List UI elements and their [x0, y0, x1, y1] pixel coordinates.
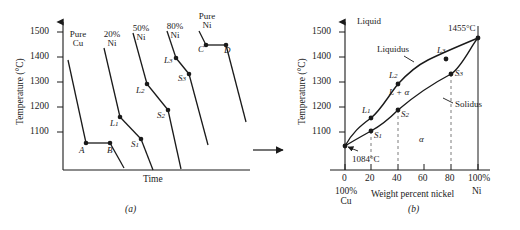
- panel-a-y-axis-title: Temperature (°C): [16, 58, 26, 125]
- panel-b-x-tick-20: 20: [365, 174, 375, 184]
- panel-b-liquidus-label: Liquidus: [377, 45, 409, 54]
- panel-b-region-alpha: α: [419, 135, 424, 144]
- panel-b-x-tick-0: 0: [342, 174, 347, 184]
- panel-a-label-20ni: 20% Ni: [100, 30, 124, 48]
- panel-b-right-corner-label: Ni: [472, 187, 482, 197]
- panel-a-y-tick-1500: 1500: [30, 27, 49, 37]
- panel-b-y-tick-1100: 1100: [312, 127, 331, 137]
- panel-b-axes: [330, 22, 490, 170]
- panel-b-tie-lines: [371, 74, 451, 163]
- panel-b-melting-point-ni: 1455°C: [448, 24, 476, 33]
- panel-a-y-tick-1300: 1300: [30, 77, 49, 87]
- panel-b-x-tick-100: 100%: [468, 174, 490, 184]
- panel-a-point-a: A: [79, 146, 85, 155]
- panel-a-point-l1: L1: [110, 119, 119, 128]
- panel-b-leader-lines: [348, 56, 453, 151]
- panel-b-left-corner-label: 100% Cu: [333, 187, 359, 206]
- panel-b-x-tick-80: 80: [445, 174, 455, 184]
- panel-b-x-tick-40: 40: [392, 174, 402, 184]
- panel-b-region-liquid: Liquid: [357, 17, 381, 26]
- panel-b-markers: [343, 36, 481, 149]
- panel-b-solidus-curve: [345, 38, 478, 146]
- panel-a-point-s1: S1: [131, 140, 139, 149]
- panel-b-y-tick-1400: 1400: [312, 52, 331, 62]
- panel-b-melting-point-cu: 1084°C: [352, 155, 380, 164]
- panel-b-region-l-plus-alpha: L + α: [389, 88, 409, 97]
- panel-b-x-axis-title: Weight percent nickel: [371, 190, 454, 200]
- panel-b-y-tick-1200: 1200: [312, 102, 331, 112]
- panel-b-y-tick-1300: 1300: [312, 77, 331, 87]
- panel-b-caption: (b): [408, 205, 419, 215]
- panel-b-y-tick-1500: 1500: [312, 27, 331, 37]
- panel-a-y-tick-1200: 1200: [30, 102, 49, 112]
- panel-b-solidus-label: Solidus: [455, 100, 482, 109]
- panel-b-point-l2: L2: [389, 71, 398, 80]
- panel-b-point-s2: S2: [401, 110, 409, 119]
- panel-b-liquidus-curve: [345, 38, 478, 146]
- panel-b-point-s3: S3: [455, 69, 463, 78]
- panel-a-label-50ni: 50% Ni: [129, 24, 153, 42]
- panel-a-label-pure-ni: Pure Ni: [195, 12, 219, 30]
- panel-a-point-l2: L2: [136, 86, 145, 95]
- panel-a-point-s3: S3: [178, 74, 186, 83]
- panel-b-x-tick-60: 60: [418, 174, 428, 184]
- panel-a-y-tick-1400: 1400: [30, 52, 49, 62]
- figure-cooling-curves-and-phase-diagram: Temperature (°C) Time 1500 1400 1300 120…: [0, 0, 520, 230]
- panel-a-point-d: D: [224, 46, 231, 55]
- panel-a-point-s2: S2: [157, 111, 165, 120]
- panel-b-point-l3: L3: [437, 46, 446, 55]
- panel-a-curve-pure-cu: [68, 60, 124, 168]
- panel-b-point-l1: L1: [362, 106, 371, 115]
- panel-a-y-tick-1100: 1100: [30, 127, 49, 137]
- panel-a-caption: (a): [125, 205, 136, 215]
- panel-a-label-pure-cu: Pure Cu: [66, 30, 90, 48]
- panel-b-y-axis-title: Temperature (°C): [298, 58, 308, 125]
- panel-b-point-s1: S1: [374, 131, 382, 140]
- panel-a-point-l3: L3: [164, 56, 173, 65]
- panel-a-point-c: C: [198, 45, 204, 54]
- panel-a-label-80ni: 80% Ni: [163, 22, 187, 40]
- panel-a-point-b: B: [107, 146, 113, 155]
- panel-a-x-axis-title: Time: [143, 175, 163, 185]
